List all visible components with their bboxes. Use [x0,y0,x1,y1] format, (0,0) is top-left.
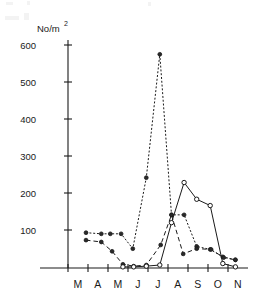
data-point [144,264,148,268]
data-point [144,176,148,180]
y-axis-title-text: No/m [37,23,60,34]
data-point [99,240,103,244]
x-tick-label-april: A [94,278,101,290]
x-tick-label-november: N [234,278,242,290]
data-point [132,265,136,269]
data-point [121,265,125,269]
data-point [84,231,88,235]
chart-container: No/m 2 600 500 400 300 200 100 [0,0,254,302]
data-point [99,232,103,236]
data-point [159,243,163,247]
data-point [222,256,226,260]
series-dashed-series [84,213,237,268]
data-point [119,232,123,236]
data-point [110,249,114,253]
x-tick-label-may: M [113,278,122,290]
data-point [182,180,186,184]
data-point [169,220,173,224]
series-line-dashed-series [86,215,235,266]
data-point [195,197,199,201]
data-point [131,247,135,251]
data-point [208,203,212,207]
y-tick-label-400: 400 [20,114,36,125]
data-point [84,238,88,242]
line-chart-svg: No/m 2 600 500 400 300 200 100 [0,0,254,302]
data-point [221,261,225,265]
data-point [158,263,162,267]
data-point [195,247,199,251]
data-point [170,213,174,217]
y-axis-ticks: 600 500 400 300 200 100 [20,40,72,236]
data-point [233,265,237,269]
y-tick-label-100: 100 [20,225,36,236]
series-dotted-series [84,52,237,261]
y-axis-title-superscript: 2 [64,20,68,27]
x-tick-label-march: M [73,278,82,290]
data-point [108,232,112,236]
y-tick-label-300: 300 [20,151,36,162]
x-tick-label-june: J [135,278,141,290]
data-point [182,213,186,217]
y-tick-label-500: 500 [20,77,36,88]
y-tick-label-200: 200 [20,188,36,199]
x-tick-label-august: A [174,278,181,290]
x-tick-label-october: O [214,278,222,290]
data-point [234,258,238,262]
x-tick-label-september: S [194,278,201,290]
data-point [209,248,213,252]
data-series-layer [84,52,238,269]
x-tick-label-july: J [155,278,161,290]
data-point [181,252,185,256]
series-line-dotted-series [86,54,235,260]
y-tick-label-600: 600 [20,40,36,51]
y-axis-title: No/m 2 [37,20,68,34]
scan-artifact-top [5,1,151,20]
data-point [158,52,162,56]
